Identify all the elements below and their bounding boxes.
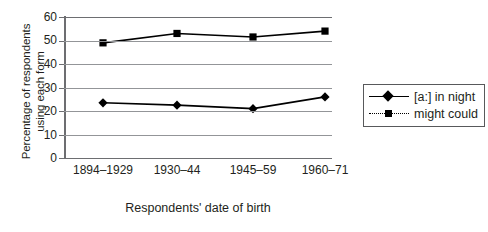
series-line-0 (103, 97, 325, 109)
y-tickmark-20 (59, 111, 64, 112)
y-tickmark-60 (59, 17, 64, 18)
data-point-0-1 (172, 101, 181, 110)
gridline-0 (64, 158, 332, 159)
legend-marker-diamond-icon (369, 90, 409, 104)
x-axis-title: Respondents' date of birth (64, 201, 332, 215)
chart-legend: [a:] in night might could (363, 84, 485, 127)
gridline-40 (64, 64, 332, 65)
y-tick-label-60: 60 (31, 11, 57, 23)
y-tickmark-40 (59, 64, 64, 65)
y-tickmark-30 (59, 88, 64, 89)
y-tick-label-50: 50 (31, 34, 57, 46)
gridline-50 (64, 41, 332, 42)
data-point-1-1 (173, 30, 180, 37)
x-tick-label-4: 1960–71 (302, 164, 349, 177)
x-tick-label-2: 1930–44 (154, 164, 201, 177)
gridline-20 (64, 111, 332, 112)
legend-item-a-in-night: [a:] in night (369, 88, 478, 105)
gridline-30 (64, 88, 332, 89)
x-tick-label-1: 1894–1929 (73, 164, 133, 177)
data-point-1-3 (321, 28, 328, 35)
data-point-0-0 (98, 98, 107, 107)
data-point-1-2 (249, 33, 256, 40)
y-tickmark-10 (59, 135, 64, 136)
y-tickmark-0 (59, 158, 64, 159)
y-tick-label-20: 20 (31, 105, 57, 117)
legend-label-1: [a:] in night (414, 90, 475, 104)
y-tick-label-30: 30 (31, 82, 57, 94)
chart-figure: Percentage of respondents using each for… (0, 0, 488, 232)
gridline-10 (64, 135, 332, 136)
data-point-0-3 (320, 92, 329, 101)
legend-marker-square-icon (369, 107, 409, 121)
y-tick-label-10: 10 (31, 129, 57, 141)
plot-area (64, 17, 332, 158)
y-tick-label-40: 40 (31, 58, 57, 70)
gridline-60 (64, 17, 332, 18)
legend-item-might-could: might could (369, 105, 478, 122)
y-tick-label-0: 0 (31, 152, 57, 164)
legend-label-2: might could (414, 107, 478, 121)
x-tick-label-3: 1945–59 (230, 164, 277, 177)
y-tickmark-50 (59, 41, 64, 42)
